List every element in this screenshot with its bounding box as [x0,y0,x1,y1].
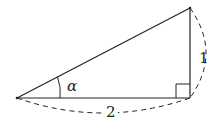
right-angle-marker [176,84,190,98]
hypotenuse [17,8,190,98]
label-horizontal-side: 2 [106,103,116,121]
label-vertical-side: 1 [199,49,209,67]
triangle-diagram: 2 1 α [0,0,221,124]
angle-arc [58,77,61,98]
base-dimension-arc [17,98,190,113]
label-angle-alpha: α [67,77,77,95]
